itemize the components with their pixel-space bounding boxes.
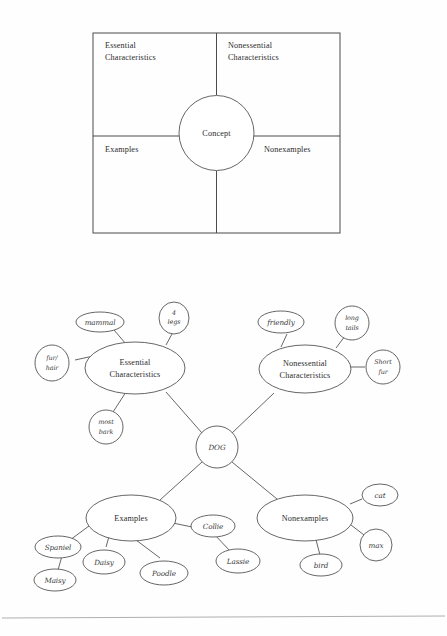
node-four-legs-line2: legs: [168, 318, 182, 326]
node-nonexamples-label: Nonexamples: [282, 514, 329, 523]
edge-nonexamples-to-max: [351, 525, 364, 535]
node-most-bark-line2: bark: [99, 428, 114, 436]
node-friendly-label: friendly: [266, 318, 295, 327]
node-short-fur: [366, 350, 400, 384]
edge-dog-to-essential: [166, 392, 202, 433]
template-nonessential-line1: Nonessential: [228, 41, 273, 50]
page-footer-rule: [2, 616, 445, 618]
node-daisy-label: Daisy: [93, 558, 115, 567]
edge-dog-to-examples: [160, 462, 202, 500]
node-essential-label-line2: Characteristics: [110, 370, 161, 379]
template-essential-line1: Essential: [105, 41, 136, 50]
edge-nonexamples-to-cat: [350, 499, 362, 504]
node-short-fur-line2: fur: [377, 368, 388, 376]
node-bird-label: bird: [314, 561, 329, 570]
node-essential-label-line1: Essential: [120, 358, 151, 367]
node-short-fur-line1: Short: [374, 358, 392, 366]
worksheet-page: Concept Essential Characteristics Noness…: [0, 0, 447, 636]
node-long-tails-line1: long: [345, 314, 359, 322]
edge-essential-to-mammal: [114, 330, 126, 344]
template-nonexamples-label: Nonexamples: [264, 145, 311, 154]
edge-dog-to-nonexamples: [232, 462, 277, 499]
node-collie-label: Collie: [203, 522, 223, 531]
node-four-legs-line1: 4: [171, 309, 176, 317]
node-nonessential-label-line2: Characteristics: [280, 371, 331, 380]
template-concept-label: Concept: [202, 129, 231, 138]
top-figure-group: Concept Essential Characteristics Noness…: [93, 33, 340, 233]
node-max-label: max: [369, 541, 384, 550]
template-essential-line2: Characteristics: [105, 53, 156, 62]
node-maisy-label: Maisy: [43, 576, 66, 585]
node-essential-characteristics: [85, 342, 185, 394]
node-fur-hair-line2: hair: [46, 364, 60, 372]
node-poodle-label: Poodle: [151, 569, 176, 578]
template-nonessential-line2: Characteristics: [228, 53, 279, 62]
edge-essential-to-most-bark: [113, 392, 126, 412]
node-fur-hair-line1: fur/: [45, 354, 58, 362]
worksheet-figures: Concept Essential Characteristics Noness…: [0, 0, 447, 636]
node-cat-label: cat: [375, 491, 386, 500]
node-long-tails-line2: tails: [345, 324, 359, 332]
bottom-figure-group: Essential Characteristics mammal 4 legs …: [34, 302, 400, 591]
edge-nonessential-to-friendly: [281, 334, 287, 347]
node-dog-label: DOG: [207, 443, 225, 452]
template-examples-label: Examples: [105, 145, 139, 154]
node-spaniel-label: Spaniel: [45, 543, 72, 552]
node-long-tails: [335, 306, 369, 340]
node-most-bark: [89, 410, 123, 444]
node-examples-label: Examples: [114, 514, 148, 523]
node-most-bark-line1: most: [98, 418, 114, 426]
edge-dog-to-nonessential: [232, 393, 274, 433]
node-nonessential-label-line1: Nonessential: [283, 359, 328, 368]
node-mammal-label: mammal: [85, 318, 116, 327]
node-fur-hair: [35, 345, 69, 381]
node-nonessential-characteristics: [259, 345, 351, 393]
edge-essential-to-four-legs: [166, 334, 172, 345]
node-lassie-label: Lassie: [226, 557, 249, 566]
